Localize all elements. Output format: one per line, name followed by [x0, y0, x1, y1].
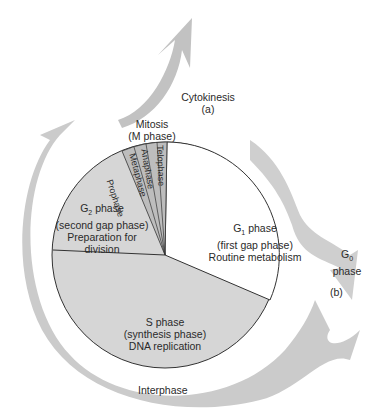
g0-marker: (b) [330, 286, 343, 298]
s-phase-label: S phase (synthesis phase) DNA replicatio… [110, 316, 220, 352]
interphase-label: Interphase [138, 384, 188, 396]
g2-label: G2 phase (second gap phase) Preparation … [52, 202, 152, 255]
g0-label: G0 phase [327, 248, 367, 277]
mitosis-label: Mitosis (M phase) [117, 118, 187, 142]
stage-telophase: Telophase [154, 145, 167, 186]
cytokinesis-label: Cytokinesis (a) [168, 91, 248, 115]
g1-label: G1 phase (first gap phase) Routine metab… [205, 222, 305, 263]
